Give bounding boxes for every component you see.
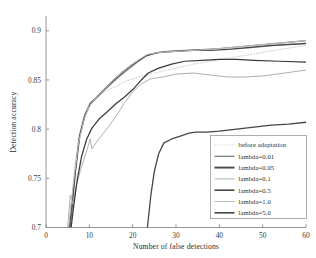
x-tick-label: 0 (44, 231, 48, 240)
x-tick-label: 20 (129, 231, 137, 240)
y-tick-label: 0.85 (28, 76, 41, 85)
legend-label-1: lambda=0.01 (239, 153, 275, 160)
x-tick-label: 10 (86, 231, 94, 240)
legend-label-4: lambda=0.5 (239, 187, 272, 194)
x-tick-label: 40 (216, 231, 224, 240)
legend-label-0: before adaptation (239, 141, 287, 148)
x-tick-label: 60 (302, 231, 310, 240)
legend-label-2: lambda=0.05 (239, 164, 275, 171)
x-axis-title: Number of false detections (133, 242, 219, 251)
legend-label-5: lambda=1.0 (239, 198, 272, 205)
y-tick-label: 0.75 (28, 174, 41, 183)
y-tick-label: 0.9 (32, 26, 42, 35)
y-tick-label: 0.7 (32, 223, 42, 232)
chart-legend: before adaptationlambda=0.01lambda=0.05l… (211, 136, 307, 219)
line-chart: 0102030405060 0.70.750.80.850.9 Number o… (0, 0, 316, 258)
chart-figure: 0102030405060 0.70.750.80.850.9 Number o… (0, 0, 316, 258)
legend-label-6: lambda=5.0 (239, 209, 272, 216)
x-tick-label: 30 (172, 231, 180, 240)
legend-label-3: lambda=0.1 (239, 175, 271, 182)
y-axis-title: Detection accuracy (9, 91, 18, 152)
y-tick-label: 0.8 (32, 125, 42, 134)
x-tick-layer: 0102030405060 (44, 224, 310, 239)
x-tick-label: 50 (259, 231, 267, 240)
